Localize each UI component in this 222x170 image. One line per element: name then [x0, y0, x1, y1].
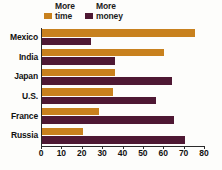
x-tick-label: 70: [179, 148, 188, 158]
x-tick-label: 30: [97, 148, 106, 158]
bar-group: [42, 67, 205, 87]
bar-group: [42, 28, 205, 48]
bar-more-money: [42, 97, 156, 105]
bar-chart-figure: More time More money MexicoIndiaJapanU.S…: [0, 0, 222, 170]
legend-time-line1: More: [55, 2, 75, 11]
chart-legend: More time More money: [44, 2, 123, 26]
x-tick-label: 60: [159, 148, 168, 158]
x-tick-label: 80: [199, 148, 208, 158]
category-label: India: [19, 52, 38, 62]
bar-group: [42, 126, 205, 146]
plot-area: [41, 28, 204, 146]
bar-more-money: [42, 38, 91, 46]
bar-more-time: [42, 69, 115, 77]
x-tick-label: 40: [118, 148, 127, 158]
x-tick-label: 50: [138, 148, 147, 158]
legend-swatch-money: [85, 13, 93, 19]
category-label: U.S.: [22, 91, 38, 101]
legend-money-row: money: [85, 12, 123, 21]
legend-money-line2: money: [96, 12, 123, 21]
bar-more-time: [42, 88, 113, 96]
x-tick-label: 0: [39, 148, 44, 158]
bar-group: [42, 48, 205, 68]
bar-more-money: [42, 57, 115, 65]
legend-money-line1: More: [96, 2, 116, 11]
x-tick-label: 10: [57, 148, 66, 158]
category-label: Russia: [11, 130, 38, 140]
legend-entry-time: More time: [44, 2, 75, 21]
category-label: Japan: [14, 71, 38, 81]
bar-more-time: [42, 29, 195, 37]
legend-time-line2: time: [55, 12, 72, 21]
x-axis-tick-labels: 01020304050607080: [0, 148, 222, 162]
legend-swatch-time: [44, 13, 52, 19]
category-label: Mexico: [10, 32, 38, 42]
bar-more-money: [42, 136, 185, 144]
bar-more-time: [42, 108, 99, 116]
bar-group: [42, 87, 205, 107]
bar-more-time: [42, 49, 164, 57]
legend-time-row: time: [44, 12, 72, 21]
bar-more-money: [42, 77, 172, 85]
bar-more-money: [42, 116, 174, 124]
x-tick-label: 20: [77, 148, 86, 158]
category-axis-labels: MexicoIndiaJapanU.S.FranceRussia: [0, 28, 38, 146]
legend-entry-money: More money: [85, 2, 123, 21]
bar-more-time: [42, 128, 83, 136]
bar-group: [42, 107, 205, 127]
category-label: France: [11, 111, 38, 121]
